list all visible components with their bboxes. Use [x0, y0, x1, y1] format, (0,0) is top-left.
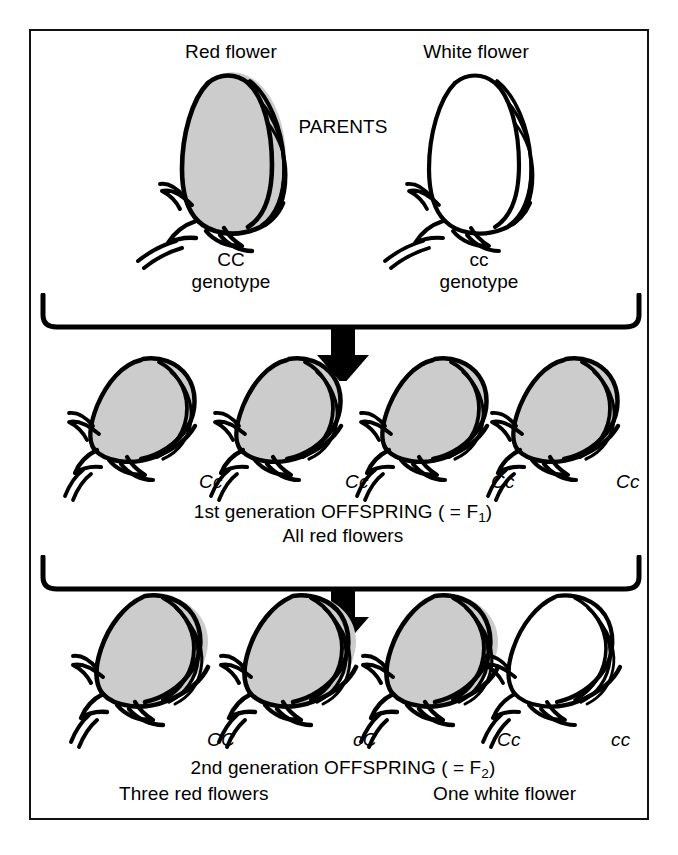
- f2-genotype-4: cc: [611, 729, 631, 751]
- f1-flower-2: [209, 356, 359, 481]
- f2-caption-right: One white flower: [433, 783, 576, 805]
- f2-caption-line1: 2nd generation OFFSPRING ( = F2): [191, 757, 496, 785]
- f1-caption-subscript: 1: [478, 510, 486, 525]
- f1-caption-line2: All red flowers: [283, 525, 404, 547]
- diagram-stage: Red flower White flower PARENTS: [31, 31, 647, 818]
- f2-flower-2: [219, 593, 374, 728]
- f1-caption-suffix: ): [486, 501, 492, 522]
- f1-flower-3: [355, 356, 505, 481]
- parent-2-genotype-caption: genotype: [440, 271, 519, 293]
- f1-caption-prefix: 1st generation OFFSPRING ( = F: [194, 501, 478, 522]
- f2-caption-suffix: ): [489, 757, 495, 778]
- f1-flower-4: [486, 356, 636, 481]
- parent-1-genotype-caption: genotype: [192, 271, 271, 293]
- parent-2-flower: [383, 65, 568, 260]
- f2-flower-1: [71, 593, 226, 728]
- f2-flower-4: [483, 593, 638, 728]
- parent-2-genotype: cc: [469, 249, 488, 271]
- parent-1-flower: [136, 65, 321, 260]
- f2-caption-left: Three red flowers: [119, 783, 269, 805]
- f2-caption-prefix: 2nd generation OFFSPRING ( = F: [191, 757, 482, 778]
- parent-1-genotype: CC: [217, 249, 245, 271]
- f1-flower-1: [63, 356, 213, 481]
- parent-2-name: White flower: [423, 41, 529, 63]
- genetics-inheritance-figure: Red flower White flower PARENTS: [29, 29, 649, 820]
- f1-genotype-4: Cc: [616, 471, 640, 493]
- parent-1-name: Red flower: [185, 41, 277, 63]
